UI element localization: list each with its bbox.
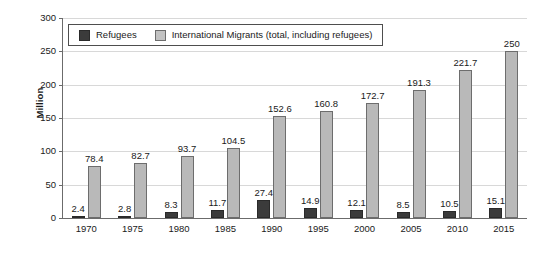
gridline <box>63 51 527 52</box>
plot-area <box>63 18 527 218</box>
legend-swatch-icon-refugees <box>79 30 90 41</box>
bar-refugees-1980 <box>165 212 178 218</box>
x-tick-label: 1985 <box>202 224 248 234</box>
bar-value-label: 152.6 <box>263 104 297 114</box>
x-tick-label: 2005 <box>388 224 434 234</box>
y-tick-label: 300 <box>26 13 56 23</box>
chart-legend: Refugees International Migrants (total, … <box>68 24 383 46</box>
x-tick-label: 1995 <box>295 224 341 234</box>
bar-value-label: 10.5 <box>432 199 466 209</box>
gridline <box>63 85 527 86</box>
x-tick-label: 1980 <box>156 224 202 234</box>
gridline <box>63 185 527 186</box>
x-tick-label: 1975 <box>109 224 155 234</box>
y-tick-mark <box>59 218 63 219</box>
y-tick-label: 150 <box>26 113 56 123</box>
bar-value-label: 27.4 <box>247 188 281 198</box>
bar-refugees-2010 <box>443 211 456 218</box>
y-tick-label: 250 <box>26 46 56 56</box>
y-tick-mark <box>59 185 63 186</box>
bar-refugees-1975 <box>118 216 131 218</box>
bar-migrants-2015 <box>505 51 518 218</box>
bar-refugees-1985 <box>211 210 224 218</box>
bar-value-label: 2.4 <box>61 204 95 214</box>
legend-label-migrants: International Migrants (total, including… <box>172 30 373 40</box>
bar-migrants-1990 <box>273 116 286 218</box>
bar-value-label: 78.4 <box>77 154 111 164</box>
legend-label-refugees: Refugees <box>96 30 137 40</box>
bar-value-label: 8.5 <box>386 200 420 210</box>
bar-value-label: 8.3 <box>154 200 188 210</box>
bar-value-label: 11.7 <box>200 198 234 208</box>
gridline <box>63 18 527 19</box>
y-tick-mark <box>59 51 63 52</box>
y-tick-mark <box>59 18 63 19</box>
bar-value-label: 12.1 <box>340 198 374 208</box>
y-tick-mark <box>59 151 63 152</box>
bar-value-label: 82.7 <box>124 151 158 161</box>
x-tick-label: 2000 <box>341 224 387 234</box>
bar-refugees-1990 <box>257 200 270 218</box>
x-axis-line <box>62 218 527 219</box>
bar-value-label: 93.7 <box>170 144 204 154</box>
bar-chart: Million Refugees International Migrants … <box>0 0 534 255</box>
bar-value-label: 191.3 <box>402 78 436 88</box>
x-tick-label: 2010 <box>434 224 480 234</box>
bar-migrants-2005 <box>413 90 426 218</box>
bar-value-label: 104.5 <box>216 136 250 146</box>
x-tick-label: 2015 <box>481 224 527 234</box>
bar-value-label: 15.1 <box>479 196 513 206</box>
y-tick-label: 100 <box>26 146 56 156</box>
legend-item-migrants: International Migrants (total, including… <box>155 30 373 41</box>
bar-migrants-2010 <box>459 70 472 218</box>
bar-value-label: 2.8 <box>108 204 142 214</box>
bar-value-label: 172.7 <box>356 91 390 101</box>
bar-refugees-2015 <box>489 208 502 218</box>
bar-value-label: 221.7 <box>448 58 482 68</box>
bar-refugees-2000 <box>350 210 363 218</box>
bar-value-label: 250 <box>495 39 529 49</box>
gridline <box>63 118 527 119</box>
bar-refugees-1995 <box>304 208 317 218</box>
x-tick-label: 1970 <box>63 224 109 234</box>
bar-refugees-2005 <box>397 212 410 218</box>
y-tick-label: 50 <box>26 180 56 190</box>
x-tick-label: 1990 <box>249 224 295 234</box>
legend-swatch-icon-migrants <box>155 30 166 41</box>
y-tick-mark <box>59 85 63 86</box>
y-tick-label: 0 <box>26 213 56 223</box>
bar-refugees-1970 <box>72 216 85 218</box>
bar-value-label: 14.9 <box>293 196 327 206</box>
bar-value-label: 160.8 <box>309 99 343 109</box>
legend-item-refugees: Refugees <box>79 30 137 41</box>
y-tick-label: 200 <box>26 80 56 90</box>
y-tick-mark <box>59 118 63 119</box>
